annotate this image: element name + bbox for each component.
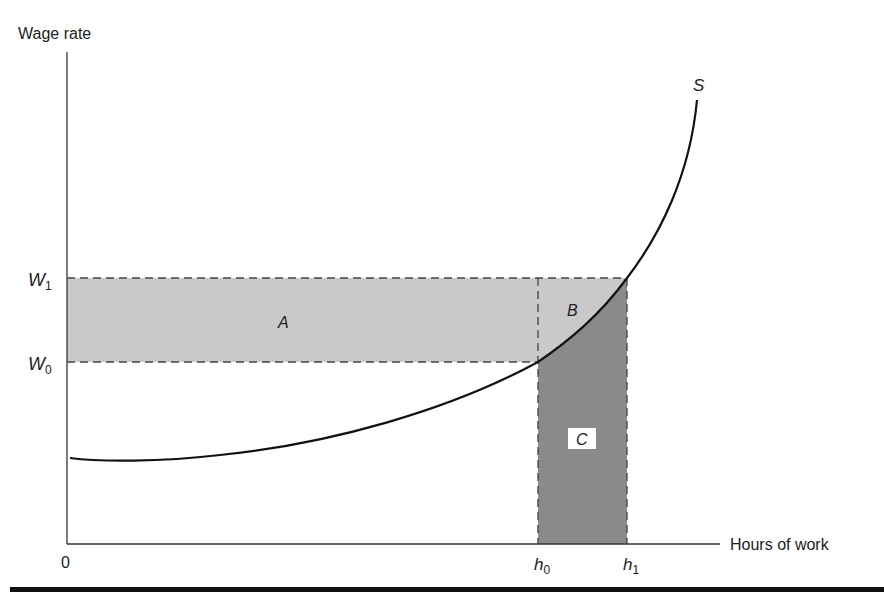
y-tick-w1: W1: [28, 270, 52, 293]
region-c-label: C: [576, 431, 588, 448]
y-tick-w0: W0: [28, 354, 52, 377]
x-axis-label: Hours of work: [730, 536, 830, 553]
region-a-label: A: [277, 314, 289, 331]
region-b-label: B: [567, 302, 578, 319]
origin-label: 0: [61, 554, 70, 571]
region-a-fill: [67, 278, 538, 362]
curve-label-s: S: [693, 76, 705, 95]
x-tick-h1: h1: [623, 555, 639, 577]
y-axis-label: Wage rate: [18, 25, 91, 42]
labor-supply-diagram: Wage rate Hours of work 0 S W1 W0 h0 h1 …: [0, 0, 884, 595]
bottom-rule: [10, 587, 884, 592]
x-tick-h0: h0: [534, 555, 550, 577]
